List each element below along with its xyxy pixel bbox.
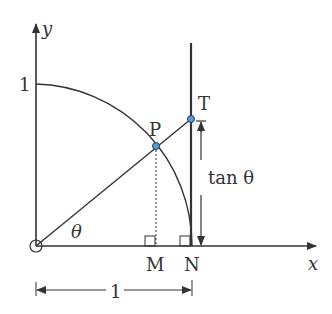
right-angle-M (145, 236, 155, 246)
tan-theta-label: tan θ (208, 167, 254, 188)
unit-circle-tangent-diagram: y x 1 P T M N θ tan θ 1 (0, 0, 332, 314)
right-angle-N (180, 236, 190, 246)
y-tick-label: 1 (19, 74, 30, 95)
angle-theta-label: θ (71, 221, 82, 242)
unit-circle-arc (36, 84, 192, 246)
point-P-label: P (149, 119, 161, 140)
point-T-marker (188, 116, 195, 123)
x-axis-label: x (308, 253, 318, 274)
line-OT (36, 119, 191, 246)
point-M-label: M (146, 254, 164, 275)
point-P-marker (153, 143, 160, 150)
length-one-label: 1 (110, 281, 121, 302)
point-T-label: T (198, 93, 210, 114)
point-N-label: N (184, 254, 200, 275)
y-axis-label: y (41, 18, 53, 39)
